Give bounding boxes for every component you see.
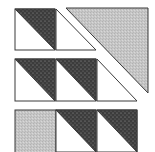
- quilt-block-diagram: [0, 0, 155, 152]
- row-3-unit-1-light-square: [15, 110, 56, 152]
